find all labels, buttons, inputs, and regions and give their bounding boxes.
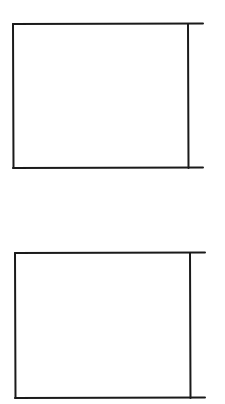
- bracket-box-top: [13, 24, 203, 169]
- top-line: [15, 253, 205, 254]
- bottom-line: [13, 168, 203, 169]
- diagram-canvas: [0, 0, 225, 404]
- bottom-line: [15, 398, 205, 399]
- left-line: [13, 24, 14, 168]
- right-bar: [188, 24, 189, 168]
- left-line: [15, 253, 16, 398]
- top-line: [13, 24, 203, 25]
- right-bar: [190, 253, 191, 398]
- bracket-box-bottom: [15, 253, 205, 399]
